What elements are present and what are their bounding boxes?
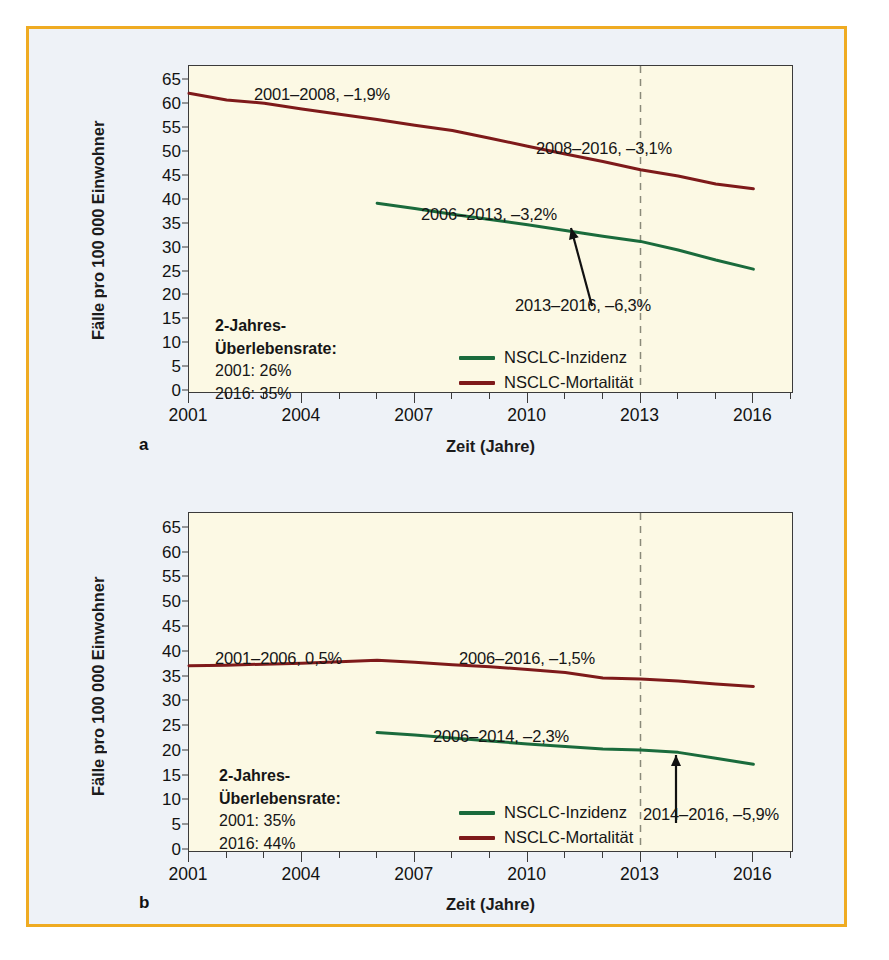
y-tick-label: 15 — [147, 766, 181, 783]
survival-heading-line1-b: 2-Jahres- — [219, 765, 341, 788]
survival-2001-a: 2001: 26% — [215, 360, 337, 383]
x-tick-mark-major — [640, 852, 641, 862]
y-tick-label: 65 — [147, 518, 181, 535]
x-tick-label: 2016 — [733, 864, 772, 885]
y-tick-label: 40 — [147, 642, 181, 659]
annotation-arrow — [569, 228, 592, 306]
survival-note-a: 2-Jahres- Überlebensrate: 2001: 26% 2016… — [215, 315, 337, 406]
y-tick-label: 60 — [147, 95, 181, 112]
x-tick-label: 2013 — [620, 405, 659, 426]
legend-swatch-mortalitaet-a — [459, 381, 495, 385]
x-tick-mark-minor — [376, 852, 377, 858]
y-axis-title-b: Fälle pro 100 000 Einwohner — [89, 521, 108, 851]
x-tick-label: 2013 — [620, 864, 659, 885]
figure-frame: Fälle pro 100 000 Einwohner 051015202530… — [26, 26, 847, 927]
x-tick-mark-major — [752, 852, 753, 862]
legend-swatch-mortalitaet-b — [459, 836, 495, 840]
y-tick-label: 20 — [147, 741, 181, 758]
y-tick-label: 60 — [147, 543, 181, 560]
x-tick-label: 2016 — [733, 405, 772, 426]
legend-b: NSCLC-Inzidenz NSCLC-Mortalität — [459, 800, 633, 850]
y-tick-label: 0 — [147, 841, 181, 858]
x-tick-mark-major — [188, 393, 189, 403]
y-tick-label: 55 — [147, 568, 181, 585]
y-tick-label: 50 — [147, 593, 181, 610]
annotation-b-1: 2001–2006, 0,5% — [215, 649, 342, 668]
x-tick-label: 2001 — [169, 405, 208, 426]
legend-item-mortalitaet-b: NSCLC-Mortalität — [459, 825, 633, 850]
x-tick-mark-minor — [715, 393, 716, 399]
y-tick-label: 0 — [147, 382, 181, 399]
x-tick-mark-major — [752, 393, 753, 403]
legend-item-inzidenz-a: NSCLC-Inzidenz — [459, 345, 633, 370]
x-tick-mark-minor — [790, 393, 791, 399]
y-tick-label: 40 — [147, 190, 181, 207]
x-tick-label: 2007 — [394, 405, 433, 426]
x-tick-mark-minor — [677, 393, 678, 399]
legend-label-mortalitaet-a: NSCLC-Mortalität — [504, 373, 633, 392]
annotation-a-1: 2001–2008, –1,9% — [254, 85, 390, 104]
survival-2001-b: 2001: 35% — [219, 810, 341, 833]
y-tick-label: 35 — [147, 214, 181, 231]
panel-letter-a: a — [139, 435, 148, 455]
x-axis-tick-labels-a: 200120042007201020132016 — [188, 405, 790, 429]
y-tick-label: 45 — [147, 617, 181, 634]
legend-item-inzidenz-b: NSCLC-Inzidenz — [459, 800, 633, 825]
x-tick-mark-major — [188, 852, 189, 862]
x-tick-mark-major — [414, 852, 415, 862]
annotation-a-2: 2008–2016, –3,1% — [536, 139, 672, 158]
annotation-b-4: 2014–2016, –5,9% — [643, 805, 779, 824]
survival-note-b: 2-Jahres- Überlebensrate: 2001: 35% 2016… — [219, 765, 341, 856]
y-tick-label: 5 — [147, 358, 181, 375]
x-tick-mark-major — [414, 393, 415, 403]
y-tick-label: 65 — [147, 71, 181, 88]
y-tick-label: 20 — [147, 286, 181, 303]
x-tick-label: 2007 — [394, 864, 433, 885]
legend-label-inzidenz-a: NSCLC-Inzidenz — [504, 348, 627, 367]
y-axis-tick-labels-b: 05101520253035404550556065 — [147, 512, 181, 849]
x-tick-mark-minor — [677, 852, 678, 858]
x-tick-label: 2010 — [507, 864, 546, 885]
x-tick-mark-minor — [790, 852, 791, 858]
x-tick-label: 2010 — [507, 405, 546, 426]
legend-label-mortalitaet-b: NSCLC-Mortalität — [504, 828, 633, 847]
legend-swatch-inzidenz-b — [459, 811, 495, 815]
y-axis-title-a: Fälle pro 100 000 Einwohner — [89, 71, 108, 389]
survival-2016-b: 2016: 44% — [219, 833, 341, 856]
x-tick-mark-minor — [602, 852, 603, 858]
x-tick-mark-major — [640, 393, 641, 403]
y-tick-label: 10 — [147, 334, 181, 351]
annotation-a-4: 2013–2016, –6,3% — [515, 296, 651, 315]
y-tick-label: 5 — [147, 816, 181, 833]
y-tick-label: 10 — [147, 791, 181, 808]
y-tick-label: 50 — [147, 143, 181, 160]
panel-letter-b: b — [139, 893, 149, 913]
y-axis-tick-labels-a: 05101520253035404550556065 — [147, 65, 181, 390]
annotation-a-3: 2006–2013, –3,2% — [421, 205, 557, 224]
x-axis-title-a: Zeit (Jahre) — [188, 437, 793, 456]
legend-label-inzidenz-b: NSCLC-Inzidenz — [504, 803, 627, 822]
x-tick-mark-minor — [451, 393, 452, 399]
y-tick-label: 30 — [147, 238, 181, 255]
annotation-b-3: 2006–2014, –2,3% — [433, 727, 569, 746]
y-tick-label: 25 — [147, 717, 181, 734]
x-tick-label: 2004 — [281, 864, 320, 885]
survival-heading-line2-a: Überlebensrate: — [215, 338, 337, 361]
x-tick-mark-minor — [564, 852, 565, 858]
x-tick-mark-major — [527, 852, 528, 862]
x-tick-mark-minor — [451, 852, 452, 858]
annotation-b-2: 2006–2016, –1,5% — [459, 649, 595, 668]
y-tick-label: 55 — [147, 119, 181, 136]
x-tick-mark-minor — [339, 393, 340, 399]
survival-heading-line2-b: Überlebensrate: — [219, 788, 341, 811]
panel-a: Fälle pro 100 000 Einwohner 051015202530… — [29, 37, 844, 477]
x-tick-mark-minor — [715, 852, 716, 858]
y-tick-label: 45 — [147, 166, 181, 183]
x-tick-label: 2001 — [169, 864, 208, 885]
y-tick-label: 30 — [147, 692, 181, 709]
x-tick-mark-minor — [376, 393, 377, 399]
y-tick-label: 35 — [147, 667, 181, 684]
x-tick-label: 2004 — [281, 405, 320, 426]
x-axis-title-b: Zeit (Jahre) — [188, 895, 793, 914]
legend-swatch-inzidenz-a — [459, 356, 495, 360]
